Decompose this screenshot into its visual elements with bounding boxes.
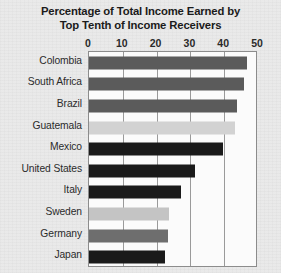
y-axis-label-brazil: Brazil — [0, 98, 85, 109]
x-tick-label-50: 50 — [251, 37, 263, 49]
y-axis-label-colombia: Colombia — [0, 55, 85, 66]
y-axis-label-germany: Germany — [0, 228, 85, 239]
bar-japan — [89, 251, 165, 264]
bar-row — [89, 225, 256, 247]
bar-germany — [89, 229, 168, 242]
x-tick-label-10: 10 — [116, 37, 128, 49]
y-axis-category-labels: ColombiaSouth AfricaBrazilGuatemalaMexic… — [0, 51, 85, 267]
y-axis-label-guatemala: Guatemala — [0, 120, 85, 131]
y-axis-label-mexico: Mexico — [0, 141, 85, 152]
chart-title-line-2: Top Tenth of Income Receivers — [0, 19, 281, 33]
x-tick-label-20: 20 — [150, 37, 162, 49]
bar-row — [89, 203, 256, 225]
bar-row — [89, 117, 256, 139]
bar-row — [89, 52, 256, 74]
bar-row — [89, 182, 256, 204]
y-axis-label-south-africa: South Africa — [0, 76, 85, 87]
bar-row — [89, 246, 256, 268]
bar-sweden — [89, 207, 169, 220]
income-distribution-bar-chart: Percentage of Total Income Earned by Top… — [0, 0, 281, 273]
bar-united-states — [89, 164, 195, 177]
chart-title: Percentage of Total Income Earned by Top… — [0, 5, 281, 32]
y-axis-label-japan: Japan — [0, 249, 85, 260]
chart-title-line-1: Percentage of Total Income Earned by — [0, 5, 281, 19]
bar-row — [89, 160, 256, 182]
bar-mexico — [89, 143, 223, 156]
y-axis-label-united-states: United States — [0, 163, 85, 174]
bar-row — [89, 95, 256, 117]
x-tick-label-0: 0 — [85, 37, 91, 49]
bars-layer — [89, 52, 256, 266]
bar-south-africa — [89, 78, 244, 91]
x-axis-tick-labels: 01020304050 — [88, 37, 257, 50]
bar-brazil — [89, 99, 237, 112]
x-tick-label-30: 30 — [184, 37, 196, 49]
bar-italy — [89, 186, 181, 199]
y-axis-label-sweden: Sweden — [0, 206, 85, 217]
bar-row — [89, 74, 256, 96]
bar-colombia — [89, 56, 247, 69]
bar-guatemala — [89, 121, 235, 134]
bar-row — [89, 138, 256, 160]
y-axis-label-italy: Italy — [0, 184, 85, 195]
plot-area — [88, 51, 257, 267]
x-tick-label-40: 40 — [217, 37, 229, 49]
